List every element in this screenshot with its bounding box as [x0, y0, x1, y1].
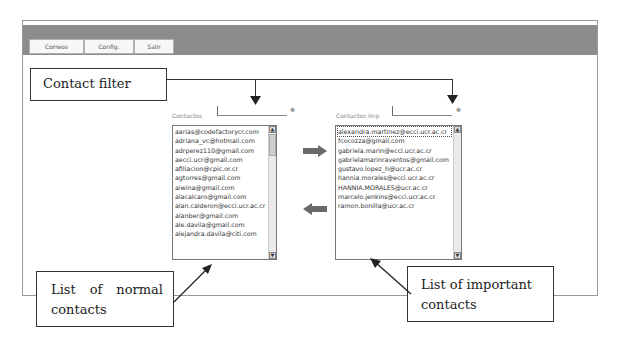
normal-contacts-list[interactable]: aarias@codefactorycr.com adriana_vc@hotm… — [172, 125, 277, 260]
scroll-thumb[interactable] — [269, 134, 276, 156]
list-item[interactable]: marcelo.jenkins@ecci.ucr.ac.cr — [338, 192, 451, 201]
list-item[interactable]: gabriela.marin@ecci.ucr.ac.cr — [338, 146, 451, 155]
menu-tabs: Correos Config. Salir — [29, 39, 174, 54]
list-item[interactable]: alejandra.davila@citi.com — [175, 229, 266, 238]
list-item[interactable]: hannia.morales@ecci.ucr.ac.cr — [338, 173, 451, 182]
important-contacts-list[interactable]: alexandra.martinez@ecci.ucr.ac.cr fcocoz… — [335, 125, 462, 260]
scrollbar[interactable]: ▲ ▼ — [453, 126, 461, 259]
normal-contacts-filter-input[interactable] — [217, 106, 287, 116]
list-item[interactable]: afiliacion@cpic.or.cr — [175, 164, 266, 173]
arrow-up-left-icon — [368, 256, 413, 296]
important-contacts-callout: List of important contacts — [407, 266, 554, 322]
scroll-down-button[interactable]: ▼ — [269, 252, 276, 259]
list-item[interactable]: adriana_vc@hotmail.com — [175, 136, 266, 145]
list-item[interactable]: gustavo.lopez_h@ucr.ac.cr — [338, 164, 451, 173]
scroll-up-button[interactable]: ▲ — [269, 126, 276, 133]
scrollbar[interactable]: ▲ ▼ — [268, 126, 276, 259]
list-item[interactable]: gabrielamarinraventos@gmail.com — [338, 155, 451, 164]
normal-contacts-callout: List of normal contacts — [36, 271, 174, 327]
arrow-up-right-icon — [172, 262, 214, 304]
contact-filter-callout: Contact filter — [30, 68, 167, 101]
asterisk-icon[interactable]: ✽ — [290, 106, 295, 113]
list-item[interactable]: adrperez110@gmail.com — [175, 146, 266, 155]
list-item[interactable]: ale.davila@gmail.com — [175, 220, 266, 229]
app-window: Correos Config. Salir — [22, 20, 598, 296]
tab-salir[interactable]: Salir — [134, 39, 174, 54]
tab-config[interactable]: Config. — [84, 39, 134, 54]
list-item[interactable]: alexandra.martinez@ecci.ucr.ac.cr — [338, 127, 451, 136]
scroll-down-button[interactable]: ▼ — [454, 252, 461, 259]
list-item[interactable]: alacalcaro@gmail.com — [175, 192, 266, 201]
arrow-left-icon[interactable] — [303, 203, 327, 215]
arrow-down-icon — [250, 96, 261, 105]
list-item[interactable]: HANNIA.MORALES@ucr.ac.cr — [338, 183, 451, 192]
normal-contacts-label: Contactos — [172, 112, 202, 119]
important-contacts-filter-input[interactable] — [392, 106, 452, 116]
list-item[interactable]: fcocozza@gmail.com — [338, 136, 451, 145]
list-item[interactable]: aecci.ucr@gmail.com — [175, 155, 266, 164]
asterisk-icon[interactable]: ✽ — [456, 106, 461, 113]
tab-correos[interactable]: Correos — [29, 39, 84, 54]
callout-line — [167, 79, 452, 80]
list-item[interactable]: alanber@gmail.com — [175, 211, 266, 220]
list-item[interactable]: alan.calderon@ecci.ucr.ac.cr — [175, 201, 266, 210]
important-contacts-label: Contactos Imp — [336, 112, 379, 119]
list-item[interactable]: aarias@codefactorycr.com — [175, 127, 266, 136]
scroll-up-button[interactable]: ▲ — [454, 126, 461, 133]
list-item[interactable]: agtorres@gmail.com — [175, 173, 266, 182]
list-item[interactable]: ramon.bonilla@ucr.ac.cr — [338, 201, 451, 210]
arrow-right-icon[interactable] — [303, 145, 327, 157]
list-item[interactable]: aiwina@gmail.com — [175, 183, 266, 192]
arrow-down-icon — [447, 95, 458, 104]
